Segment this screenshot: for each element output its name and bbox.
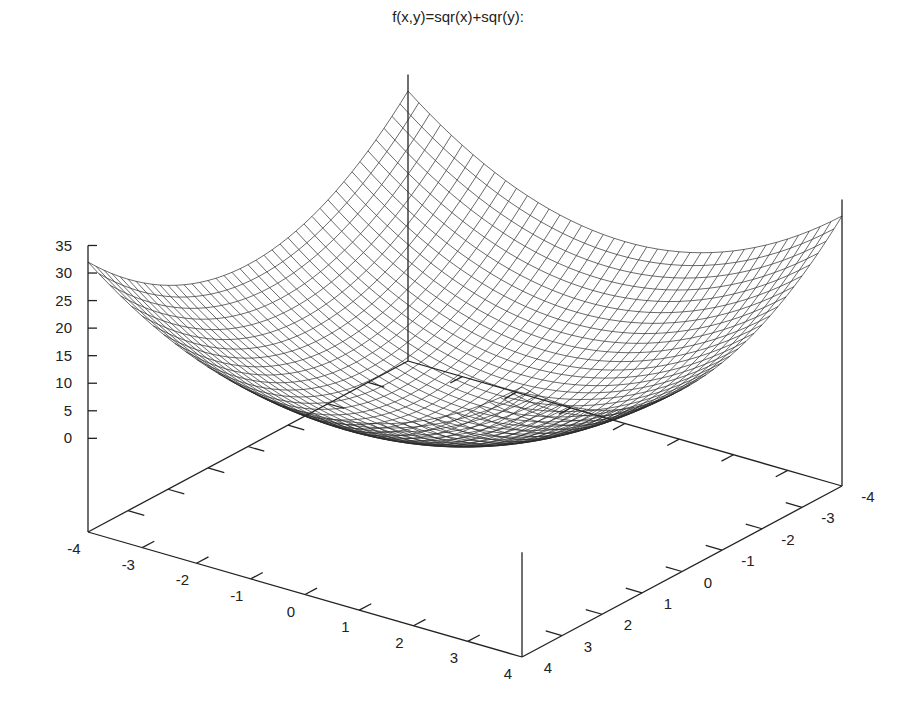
x-tick: [251, 572, 263, 578]
x-tick-back: [613, 424, 625, 430]
mesh-line-const-x: [175, 172, 495, 366]
y-tick-label: 4: [544, 659, 552, 676]
y-tick-back: [248, 447, 264, 452]
mesh-line-const-y: [336, 191, 770, 353]
x-tick: [359, 604, 371, 610]
x-tick-label: 1: [341, 618, 349, 635]
x-tick-back: [776, 470, 788, 476]
mesh-line-const-x: [283, 235, 603, 429]
z-tick-label: 25: [55, 292, 72, 309]
y-tick-label: -1: [741, 552, 754, 569]
y-tick-label: 0: [704, 574, 712, 591]
y-tick-label: -2: [781, 531, 794, 548]
z-tick-label: 10: [55, 374, 72, 391]
surface-plot: 05101520253035-4-3-2-101234-4-3-2-101234: [0, 0, 916, 710]
x-tick: [197, 557, 209, 563]
front-axes: [88, 199, 842, 657]
z-tick-label: 30: [55, 264, 72, 281]
z-tick-label: 5: [64, 402, 72, 419]
x-tick-label: -3: [122, 556, 135, 573]
y-tick: [546, 631, 562, 636]
mesh-line-const-y: [112, 274, 546, 436]
mesh-line-const-y: [408, 91, 842, 253]
x-tick: [414, 619, 426, 625]
y-tick-back: [168, 489, 184, 494]
mesh-line-const-y: [152, 284, 586, 446]
y-tick-label: 2: [624, 616, 632, 633]
mesh-line-const-x: [229, 209, 549, 403]
z-tick-label: 0: [64, 429, 72, 446]
y-tick-back: [208, 468, 224, 473]
y-tick-back: [288, 425, 304, 430]
mesh-line-const-y: [376, 140, 810, 302]
y-tick: [706, 545, 722, 550]
mesh-line-const-x: [142, 145, 462, 339]
x-tick-label: 0: [287, 603, 295, 620]
x-tick-label: 2: [395, 634, 403, 651]
mesh-line-const-x: [110, 114, 430, 308]
mesh-line-const-x: [218, 203, 538, 397]
mesh-line-const-x: [121, 125, 441, 319]
mesh-line-const-x: [164, 164, 484, 358]
y-tick-label: -4: [861, 488, 874, 505]
y-tick: [746, 524, 762, 529]
x-tick: [468, 635, 480, 641]
x-tick: [305, 588, 317, 594]
y-tick-label: -3: [821, 509, 834, 526]
mesh-line-const-x: [294, 238, 614, 432]
mesh-line-const-y: [184, 285, 618, 447]
y-tick: [786, 503, 802, 508]
mesh-line-const-y: [304, 224, 738, 386]
z-tick-label: 15: [55, 347, 72, 364]
y-tick: [666, 567, 682, 572]
x-tick-label: -1: [230, 587, 243, 604]
surface-mesh: [88, 91, 842, 447]
x-tick: [142, 541, 154, 547]
mesh-line-const-x: [381, 253, 701, 447]
mesh-line-const-x: [359, 252, 679, 446]
mesh-line-const-y: [208, 281, 642, 443]
y-tick: [626, 588, 642, 593]
y-tick-back: [128, 511, 144, 516]
z-tick-label: 20: [55, 319, 72, 336]
x-tick-label: -4: [67, 540, 80, 557]
z-tick-label: 35: [55, 237, 72, 254]
tick-labels: 05101520253035-4-3-2-101234-4-3-2-101234: [55, 237, 874, 683]
x-tick-label: 3: [450, 649, 458, 666]
x-tick-label: 4: [504, 665, 512, 682]
y-tick-label: 1: [664, 595, 672, 612]
mesh-line-const-x: [131, 135, 451, 329]
y-tick-label: 3: [584, 638, 592, 655]
mesh-line-const-y: [96, 266, 530, 428]
mesh-line-const-x: [99, 103, 419, 297]
y-tick: [586, 610, 602, 615]
x-tick-back: [722, 455, 734, 461]
x-tick-back: [667, 439, 679, 445]
x-tick-label: -2: [176, 571, 189, 588]
